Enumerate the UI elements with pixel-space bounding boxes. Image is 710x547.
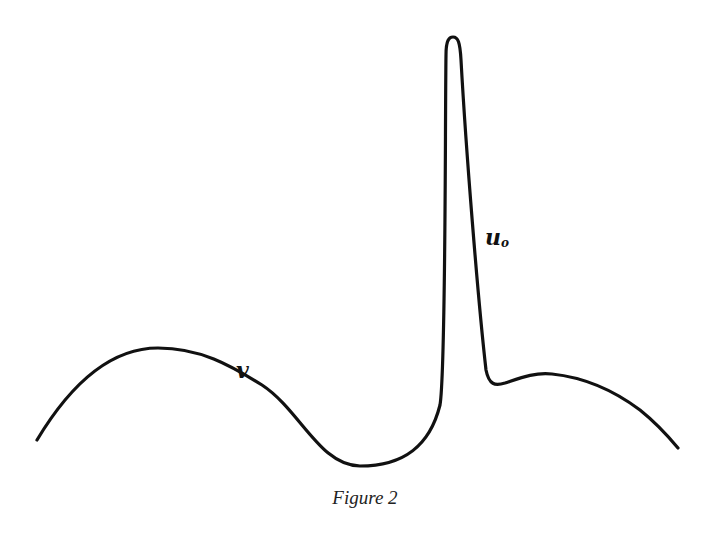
curve-label-u-o: uo bbox=[485, 224, 509, 250]
figure-caption: Figure 2 bbox=[0, 487, 710, 509]
waveform-curve bbox=[0, 0, 710, 547]
curve-label-v: v bbox=[236, 357, 249, 383]
figure-2: v uo Figure 2 bbox=[0, 0, 710, 547]
label-u-subscript: o bbox=[501, 236, 509, 250]
curve-path bbox=[37, 37, 678, 466]
label-u-base: u bbox=[485, 224, 501, 250]
